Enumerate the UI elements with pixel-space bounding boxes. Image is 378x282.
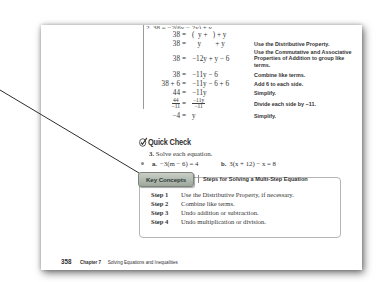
chapter-title: Solving Equations and Inequalities [108,260,178,265]
reason-text: Combine like terms. [254,72,354,78]
fraction: −11y −11 [192,98,205,109]
quick-check-item: 3. Solve each equation. [149,150,212,157]
page-footer: 358 Chapter 7 Solving Equations and Ineq… [61,250,178,268]
key-concepts-box: Key Concepts Steps for Solving a Multi-S… [139,177,341,238]
reason-text: Add 6 to each side. [254,81,354,87]
page-number: 358 [61,258,72,265]
key-concepts-tab: Key Concepts [138,172,194,187]
key-concepts-title: Steps for Solving a Multi-Step Equation [198,175,308,183]
quick-check-part-a: a.−3(m − 6) = 4 [152,160,198,167]
reason-text: Use the Distributive Property. [254,41,354,47]
reason-text: Simplify. [254,90,354,96]
checkmark-pencil-icon [139,137,147,147]
textbook-page: 2. 38 = −2(6y − 2y) + y 38 = ( y + ) + y… [41,25,362,270]
chapter-label: Chapter 7 [80,260,101,265]
bullet-dot [141,162,144,165]
reason-text: Divide each side by −11. [254,101,354,107]
reason-text: Simplify. [254,113,354,119]
quick-check-part-b: b.3(x + 12) − x = 8 [221,160,276,167]
reason-text: Use the Commutative and Associative Prop… [254,49,354,68]
quick-check-heading: Quick Check [139,137,191,147]
fraction: 44 −11 [172,98,180,109]
cut-off-equation: 2. 38 = −2(6y − 2y) + y [146,25,212,29]
margin-rule [143,25,144,109]
